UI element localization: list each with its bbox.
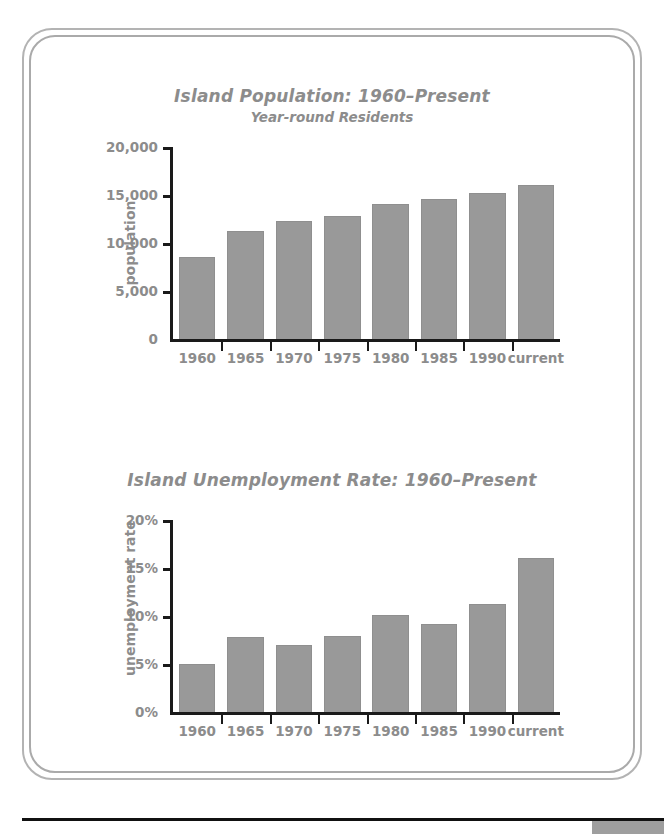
y-tick-mark [163,616,173,619]
bottom-rule [22,818,664,821]
y-tick-mark [163,147,173,150]
y-tick-labels: 0%5%10%15%20% [96,520,158,738]
x-tick-label: 1990 [469,723,507,739]
bar [421,624,458,712]
bar [324,216,361,339]
bar [518,558,555,712]
x-tick-label: 1985 [420,723,458,739]
x-tick-label: 1980 [372,723,410,739]
bar [227,637,264,712]
bar [372,204,409,339]
x-tick-labels: 1960196519701975198019851990current [170,350,560,372]
x-tick-label: 1985 [420,350,458,366]
chart-title: Island Unemployment Rate: 1960–Present [0,470,664,490]
y-tick-mark [163,291,173,294]
x-tick-label: 1965 [227,723,265,739]
bar [324,636,361,712]
bar [469,193,506,339]
page-corner-block [592,821,664,834]
x-tick-label: 1960 [178,723,216,739]
plot-wrapper: unemployment rate 0%5%10%15%20% 19601965… [96,520,576,738]
x-axis-line [170,712,560,715]
plot-area [170,147,560,342]
x-tick-label: 1975 [324,723,362,739]
bar [276,645,313,712]
y-tick-mark [163,195,173,198]
bar [518,185,555,339]
x-tick-labels: 1960196519701975198019851990current [170,723,560,745]
y-tick-label: 20% [126,512,158,528]
x-tick-label: current [508,723,564,739]
plot-area [170,520,560,715]
x-tick-label: 1975 [324,350,362,366]
y-tick-mark [163,520,173,523]
bar [469,604,506,712]
y-tick-label: 15% [126,560,158,576]
y-tick-label: 5,000 [115,283,158,299]
y-tick-label: 10% [126,608,158,624]
chart-population: Island Population: 1960–Present Year-rou… [0,86,664,365]
y-tick-label: 15,000 [106,187,158,203]
y-tick-label: 20,000 [106,139,158,155]
x-tick-label: 1970 [275,723,313,739]
y-tick-labels: 05,00010,00015,00020,000 [96,147,158,365]
x-tick-label: 1990 [469,350,507,366]
bar [227,231,264,339]
x-tick-label: 1980 [372,350,410,366]
plot-wrapper: population 05,00010,00015,00020,000 1960… [96,147,576,365]
y-tick-label: 5% [135,656,158,672]
chart-subtitle: Year-round Residents [0,109,664,125]
bar-series [173,520,560,712]
chart-title: Island Population: 1960–Present [0,86,664,106]
bar [276,221,313,339]
x-axis-line [170,339,560,342]
y-tick-label: 10,000 [106,235,158,251]
bar [179,664,216,712]
x-tick-label: 1960 [178,350,216,366]
x-tick-label: current [508,350,564,366]
y-tick-label: 0 [149,331,158,347]
x-tick-label: 1965 [227,350,265,366]
bar [421,199,458,339]
y-tick-mark [163,664,173,667]
chart-unemployment: Island Unemployment Rate: 1960–Present u… [0,470,664,738]
x-tick-label: 1970 [275,350,313,366]
y-tick-mark [163,568,173,571]
bar [372,615,409,712]
bar-series [173,147,560,339]
bar [179,257,216,339]
y-tick-mark [163,243,173,246]
y-tick-label: 0% [135,704,158,720]
